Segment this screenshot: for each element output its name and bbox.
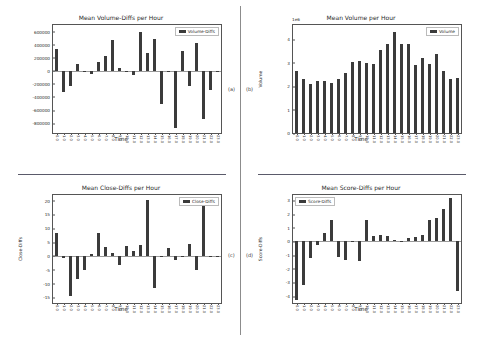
legend-swatch-icon [179, 30, 186, 34]
legend-label: Score-Diffs [308, 199, 331, 204]
chart-score-diffs: Mean Score-Diffs per Hour Score-Diffs Sc… [252, 176, 470, 341]
horizontal-divider-right [258, 174, 466, 175]
bar [83, 256, 86, 270]
plot-area: Volume-Diffs 6000004000002000000-200000-… [52, 24, 222, 134]
bar [295, 71, 298, 133]
bar [97, 62, 100, 71]
bar [372, 64, 375, 133]
bar [195, 43, 198, 71]
bar [76, 256, 79, 280]
bar [295, 241, 298, 300]
legend-label: Volume-Diffs [188, 29, 215, 34]
bar [62, 71, 65, 92]
y-axis-tick: 200000 [34, 55, 53, 60]
bar [90, 71, 93, 75]
bar [216, 256, 219, 257]
y-axis-label: Close-Diffs [18, 237, 23, 261]
bar [386, 44, 389, 133]
bar [323, 233, 326, 242]
bar [309, 241, 312, 257]
bar [351, 62, 354, 133]
bar [351, 241, 354, 242]
bar [202, 71, 205, 119]
bar [160, 71, 163, 104]
bar [111, 40, 114, 71]
bar [160, 256, 163, 257]
bar [330, 83, 333, 133]
bar [181, 256, 184, 257]
bar [407, 44, 410, 133]
y-axis-tick: -800000 [33, 121, 54, 126]
bar [407, 238, 410, 241]
bar [202, 206, 205, 256]
y-axis-tick: 15 [45, 212, 53, 217]
figure-page: (a) (b) (c) (d) Mean Volume-Diffs per Ho… [0, 0, 481, 341]
y-axis-tick: 600000 [34, 29, 53, 34]
y-axis-tick: 4 [287, 37, 293, 42]
bar [132, 251, 135, 256]
y-axis-label: Score-Diffs [258, 237, 263, 261]
legend: Volume-Diffs [175, 27, 219, 36]
bar [386, 236, 389, 241]
bar [442, 209, 445, 242]
bar [76, 64, 79, 71]
bar [393, 240, 396, 242]
vertical-divider [240, 6, 241, 335]
bar [372, 236, 375, 242]
bar [400, 44, 403, 133]
bar [456, 78, 459, 133]
bar [449, 79, 452, 133]
bar [379, 50, 382, 133]
chart-title: Mean Close-Diffs per Hour [12, 184, 230, 191]
y-axis-tick: -3 [286, 280, 293, 285]
bar [442, 71, 445, 133]
y-axis-tick: -4 [286, 294, 293, 299]
y-axis-tick: -400000 [33, 94, 54, 99]
legend-swatch-icon [183, 200, 190, 204]
plot-area: Score-Diffs Score-Diffs 3210-1-2-3-40.01… [292, 194, 462, 304]
y-axis-tick: -1 [286, 253, 293, 258]
y-axis-tick: 0 [47, 68, 53, 73]
bars-container [293, 25, 461, 133]
y-axis-tick: 3 [287, 60, 293, 65]
bar [435, 54, 438, 133]
y-axis-tick: -10 [43, 281, 53, 286]
bar [456, 241, 459, 290]
bar [323, 81, 326, 133]
y-axis-tick: 0 [287, 131, 293, 136]
bars-container [53, 195, 221, 303]
bar [414, 65, 417, 133]
y-axis-tick: -200000 [33, 81, 54, 86]
axis-offset-label: 1e6 [292, 17, 300, 22]
bar [139, 32, 142, 71]
x-axis-label: Time [12, 136, 230, 142]
bar [55, 233, 58, 256]
bar [62, 256, 65, 258]
x-axis-label: Time [252, 136, 470, 142]
bar [55, 49, 58, 71]
bar [111, 253, 114, 256]
y-axis-tick: -2 [286, 266, 293, 271]
bar [449, 198, 452, 241]
bar [428, 64, 431, 133]
bar [97, 233, 100, 256]
bar [414, 237, 417, 242]
bar [330, 220, 333, 242]
y-axis-tick: -15 [43, 295, 53, 300]
bar [139, 245, 142, 256]
bar [125, 246, 128, 256]
y-axis-tick: 3 [287, 198, 293, 203]
bar [365, 63, 368, 133]
y-axis-tick: 400000 [34, 42, 53, 47]
bar [69, 71, 72, 86]
y-axis-tick: 2 [287, 84, 293, 89]
plot-area: Close-Diffs Close-Diffs 20151050-5-10-15… [52, 194, 222, 304]
bar [428, 220, 431, 242]
chart-volume-diffs: Mean Volume-Diffs per Hour Volume-Diffs … [12, 6, 230, 171]
bar [153, 256, 156, 288]
bar [337, 79, 340, 133]
y-axis-label: Volume [258, 71, 263, 88]
legend-label: Close-Diffs [192, 199, 215, 204]
bar [316, 81, 319, 133]
chart-volume: Mean Volume per Hour 1e6 Volume Volume 4… [252, 6, 470, 171]
